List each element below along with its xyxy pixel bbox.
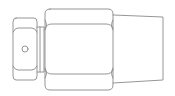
fitting-drawing bbox=[0, 0, 175, 96]
hole-marker-icon bbox=[22, 46, 28, 52]
small-hex-nut bbox=[13, 18, 37, 80]
collar bbox=[37, 27, 44, 72]
tapered-tail bbox=[113, 15, 163, 83]
large-hex-body bbox=[45, 9, 113, 90]
